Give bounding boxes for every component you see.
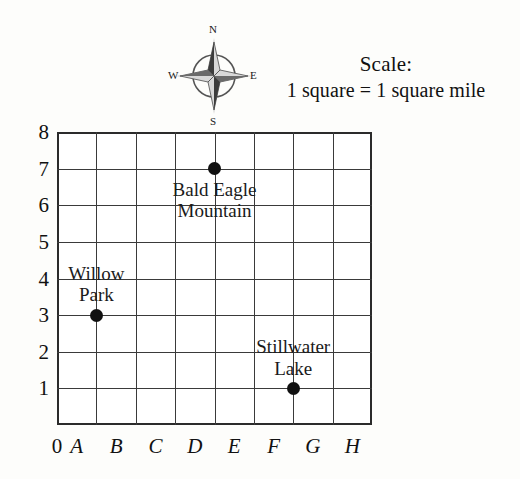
map-label-line-2: Park [68,284,124,305]
map-label-willow-park: WillowPark [68,263,124,306]
map-label-bald-eagle-mountain: Bald EagleMountain [173,179,257,222]
map-label-line-2: Mountain [173,200,257,221]
x-axis-label: C [138,436,172,457]
x-axis-label: A [60,436,94,457]
map-label-line-1: Stillwater [256,336,330,357]
scale-title: Scale: [258,52,514,78]
x-axis-label: B [99,436,133,457]
x-axis-label: D [178,436,212,457]
x-axis-label: F [257,436,291,457]
x-axis-label: E [217,436,251,457]
map-grid: Bald EagleMountainWillowParkStillwaterLa… [57,132,372,425]
x-axis-label: H [335,436,369,457]
y-axis-label: 1 [23,378,49,399]
map-point-willow-park[interactable] [90,309,103,322]
y-axis-label: 4 [23,269,49,290]
grid-line-horizontal [57,388,372,389]
compass-rose: N S W E [168,24,260,128]
map-label-stillwater-lake: StillwaterLake [256,336,330,379]
y-axis-label: 6 [23,195,49,216]
y-axis-label: 2 [23,342,49,363]
map-point-stillwater-lake[interactable] [287,382,300,395]
y-axis-label: 3 [23,305,49,326]
scale-description: 1 square = 1 square mile [258,78,514,102]
compass-west-label: W [168,70,178,81]
y-axis-label: 8 [23,122,49,143]
grid-map-figure: N S W E Scale: 1 square = 1 square mile … [0,0,520,479]
map-label-line-1: Bald Eagle [173,179,257,200]
y-axis-label: 7 [23,159,49,180]
grid-line-horizontal [57,315,372,316]
map-label-line-1: Willow [68,263,124,284]
grid-line-horizontal [57,242,372,243]
compass-north-label: N [209,24,217,35]
x-axis-label: G [296,436,330,457]
map-scale: Scale: 1 square = 1 square mile [258,52,514,102]
y-axis-label: 5 [23,232,49,253]
compass-south-label: S [210,116,216,127]
compass-east-label: E [250,70,257,81]
map-label-line-2: Lake [256,358,330,379]
